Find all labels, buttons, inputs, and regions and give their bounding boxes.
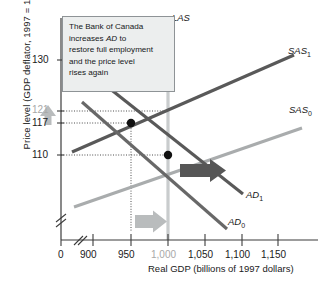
equilibrium-point-1000-110 xyxy=(164,151,172,159)
sas0-label-text: SAS xyxy=(289,104,308,115)
note-line-4: and the price level xyxy=(69,56,169,68)
ad1-label-text: AD xyxy=(246,189,259,200)
x-tick-label-950: 950 xyxy=(118,249,135,260)
annotation-note: The Bank of Canada increases AD to resto… xyxy=(62,16,175,92)
y-tick-label-117: 117 xyxy=(32,117,48,128)
ad0-label: AD0 xyxy=(228,216,245,229)
ad1-label: AD1 xyxy=(246,189,263,202)
y-tick-label-130: 130 xyxy=(32,54,49,65)
sas0-label: SAS0 xyxy=(289,104,312,117)
note-line-1: The Bank of Canada xyxy=(69,21,169,33)
note-line-2-a: increases xyxy=(69,34,106,43)
ad0-label-sub: 0 xyxy=(241,222,245,229)
sas1-label-text: SAS xyxy=(288,45,307,56)
x-tick-label-1150: 1,150 xyxy=(261,249,286,260)
x-tick-label-900: 900 xyxy=(80,249,97,260)
y-tick-label-121: 121 xyxy=(32,104,49,115)
note-line-3: restore full employment xyxy=(69,44,169,56)
ad0-label-text: AD xyxy=(228,216,241,227)
x-tick-label-1000: 1,000 xyxy=(151,249,176,260)
note-line-2-b: to xyxy=(117,34,126,43)
sas1-label: SAS1 xyxy=(288,45,311,58)
ad1-label-sub: 1 xyxy=(259,195,263,202)
sas1-label-sub: 1 xyxy=(307,51,311,58)
real-gdp-increase-arrow xyxy=(135,211,167,233)
as-ad-chart: Price level (GDP deflator, 1997 = 100) R… xyxy=(0,0,330,283)
x-tick-label-0: 0 xyxy=(58,249,64,260)
y-tick-label-110: 110 xyxy=(32,149,48,160)
note-line-5: rises again xyxy=(69,67,169,79)
equilibrium-point-950-117 xyxy=(127,119,135,127)
note-line-2-italic: AD xyxy=(106,34,117,43)
x-tick-label-1050: 1,050 xyxy=(188,249,213,260)
x-axis-title: Real GDP (billions of 1997 dollars) xyxy=(148,263,294,274)
x-tick-label-1100: 1,100 xyxy=(225,249,250,260)
ad1-curve xyxy=(109,88,243,194)
y-axis-title: Price level (GDP deflator, 1997 = 100) xyxy=(21,0,32,158)
sas0-label-sub: 0 xyxy=(308,110,312,117)
note-line-2: increases AD to xyxy=(69,33,169,45)
